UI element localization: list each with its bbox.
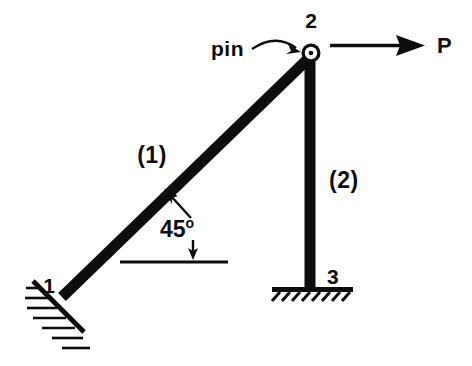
pin-label: pin bbox=[211, 37, 244, 60]
node-1-label: 1 bbox=[43, 274, 55, 297]
node-3-hatching bbox=[272, 292, 350, 301]
node-1-hatching bbox=[25, 288, 90, 348]
engineering-diagram: 1 2 3 (1) (2) bbox=[0, 0, 472, 366]
force-arrow-p: P bbox=[330, 33, 452, 58]
pin-center-dot bbox=[309, 51, 314, 56]
angle-value-label: 45o bbox=[160, 215, 194, 242]
force-label: P bbox=[437, 33, 452, 58]
node-2-pin-joint: 2 bbox=[302, 9, 321, 63]
force-arrow-head bbox=[396, 35, 425, 56]
member-1-label: (1) bbox=[137, 142, 167, 168]
frame-diagram-canvas: 1 2 3 (1) (2) bbox=[0, 0, 472, 366]
member-2-label: (2) bbox=[329, 167, 359, 193]
angle-degree-symbol: o bbox=[186, 215, 195, 231]
pin-callout: pin bbox=[211, 37, 301, 60]
angle-value: 45 bbox=[160, 216, 186, 242]
member-2-vertical-bar bbox=[305, 55, 316, 289]
node-3-label: 3 bbox=[327, 265, 339, 288]
node-2-label: 2 bbox=[305, 9, 317, 32]
